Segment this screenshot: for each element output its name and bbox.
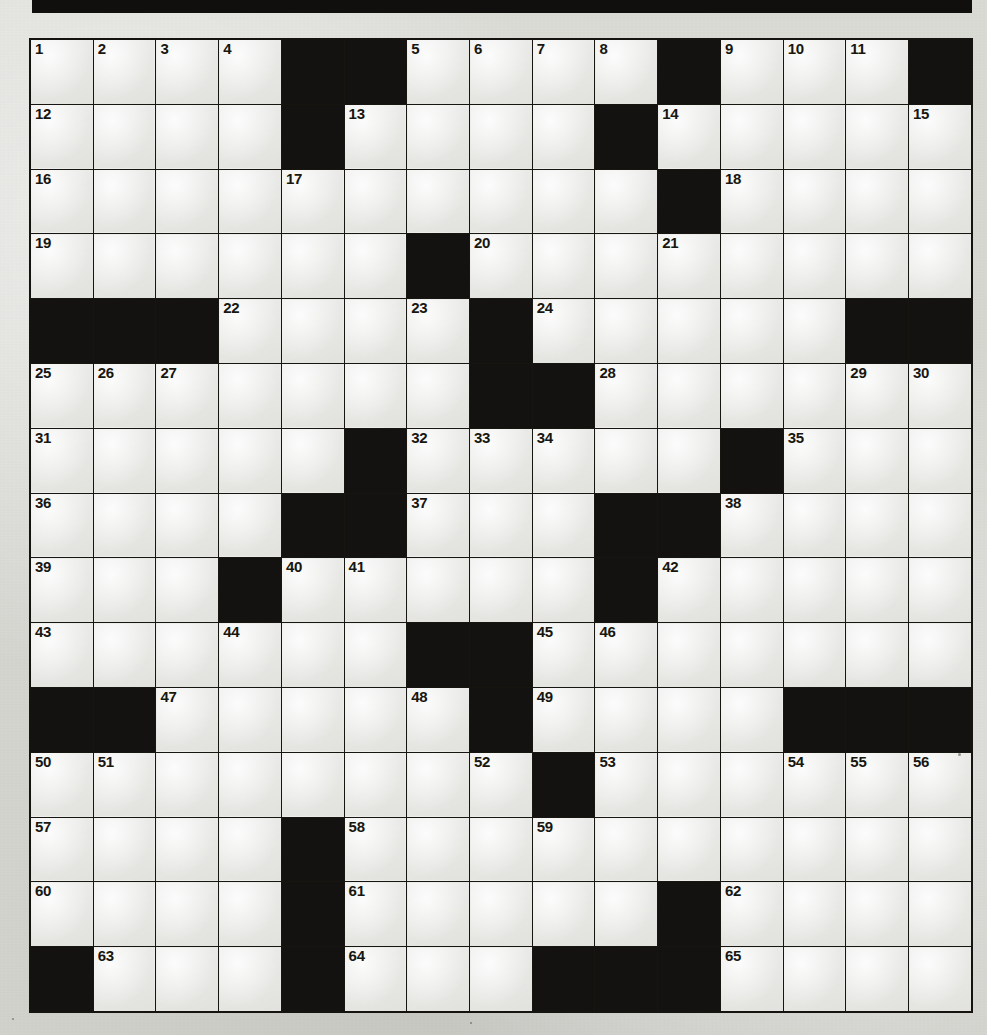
letter-cell[interactable] [219,104,282,169]
letter-cell[interactable] [219,752,282,817]
letter-cell[interactable]: 60 [30,882,93,947]
letter-cell[interactable]: 26 [93,363,156,428]
letter-cell[interactable] [281,428,344,493]
letter-cell[interactable] [783,234,846,299]
letter-cell[interactable]: 6 [470,39,533,104]
letter-cell[interactable]: 51 [93,752,156,817]
crossword-grid[interactable]: 1234567891011121314151617181920212223242… [29,38,973,1013]
letter-cell[interactable]: 11 [846,39,909,104]
letter-cell[interactable] [281,687,344,752]
letter-cell[interactable] [219,882,282,947]
letter-cell[interactable]: 61 [344,882,407,947]
letter-cell[interactable] [407,104,470,169]
letter-cell[interactable] [595,299,658,364]
letter-cell[interactable]: 9 [720,39,783,104]
letter-cell[interactable]: 25 [30,363,93,428]
letter-cell[interactable] [407,882,470,947]
letter-cell[interactable]: 18 [720,169,783,234]
letter-cell[interactable] [407,947,470,1012]
letter-cell[interactable]: 28 [595,363,658,428]
letter-cell[interactable]: 7 [532,39,595,104]
letter-cell[interactable] [93,623,156,688]
letter-cell[interactable] [909,234,972,299]
letter-cell[interactable]: 13 [344,104,407,169]
letter-cell[interactable]: 21 [658,234,721,299]
letter-cell[interactable]: 43 [30,623,93,688]
letter-cell[interactable]: 63 [93,947,156,1012]
letter-cell[interactable] [344,363,407,428]
letter-cell[interactable] [658,363,721,428]
letter-cell[interactable]: 52 [470,752,533,817]
letter-cell[interactable]: 19 [30,234,93,299]
letter-cell[interactable] [470,104,533,169]
letter-cell[interactable] [658,817,721,882]
letter-cell[interactable]: 56 [909,752,972,817]
letter-cell[interactable]: 42 [658,558,721,623]
letter-cell[interactable]: 35 [783,428,846,493]
letter-cell[interactable]: 64 [344,947,407,1012]
letter-cell[interactable] [595,687,658,752]
letter-cell[interactable] [595,234,658,299]
letter-cell[interactable]: 5 [407,39,470,104]
letter-cell[interactable] [156,493,219,558]
letter-cell[interactable] [156,558,219,623]
letter-cell[interactable] [93,558,156,623]
letter-cell[interactable] [909,558,972,623]
letter-cell[interactable] [156,882,219,947]
letter-cell[interactable]: 17 [281,169,344,234]
letter-cell[interactable] [281,234,344,299]
letter-cell[interactable]: 34 [532,428,595,493]
letter-cell[interactable]: 40 [281,558,344,623]
letter-cell[interactable] [720,234,783,299]
letter-cell[interactable] [407,558,470,623]
letter-cell[interactable] [93,428,156,493]
letter-cell[interactable] [470,817,533,882]
letter-cell[interactable] [344,234,407,299]
letter-cell[interactable] [846,558,909,623]
letter-cell[interactable]: 24 [532,299,595,364]
letter-cell[interactable]: 33 [470,428,533,493]
letter-cell[interactable] [281,363,344,428]
letter-cell[interactable] [470,947,533,1012]
letter-cell[interactable]: 41 [344,558,407,623]
letter-cell[interactable]: 50 [30,752,93,817]
letter-cell[interactable] [658,752,721,817]
letter-cell[interactable] [219,493,282,558]
letter-cell[interactable] [281,299,344,364]
letter-cell[interactable] [595,428,658,493]
letter-cell[interactable] [344,299,407,364]
letter-cell[interactable]: 46 [595,623,658,688]
letter-cell[interactable] [219,947,282,1012]
letter-cell[interactable]: 29 [846,363,909,428]
letter-cell[interactable] [909,817,972,882]
letter-cell[interactable] [532,558,595,623]
letter-cell[interactable]: 49 [532,687,595,752]
letter-cell[interactable]: 47 [156,687,219,752]
letter-cell[interactable] [407,817,470,882]
letter-cell[interactable]: 36 [30,493,93,558]
letter-cell[interactable] [156,752,219,817]
letter-cell[interactable] [156,169,219,234]
letter-cell[interactable]: 38 [720,493,783,558]
letter-cell[interactable] [595,817,658,882]
letter-cell[interactable]: 39 [30,558,93,623]
letter-cell[interactable] [846,817,909,882]
letter-cell[interactable] [846,234,909,299]
letter-cell[interactable] [658,428,721,493]
letter-cell[interactable]: 59 [532,817,595,882]
letter-cell[interactable] [783,558,846,623]
letter-cell[interactable] [470,169,533,234]
letter-cell[interactable] [720,687,783,752]
letter-cell[interactable] [783,947,846,1012]
letter-cell[interactable] [470,493,533,558]
letter-cell[interactable] [532,882,595,947]
letter-cell[interactable] [93,817,156,882]
letter-cell[interactable] [344,169,407,234]
letter-cell[interactable]: 58 [344,817,407,882]
letter-cell[interactable]: 37 [407,493,470,558]
letter-cell[interactable] [281,752,344,817]
letter-cell[interactable]: 12 [30,104,93,169]
letter-cell[interactable] [156,104,219,169]
letter-cell[interactable] [407,363,470,428]
letter-cell[interactable] [909,947,972,1012]
